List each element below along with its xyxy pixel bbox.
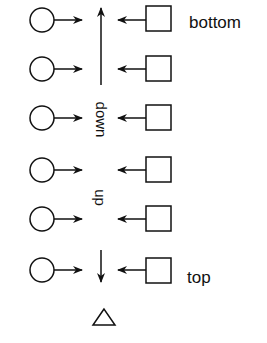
circle-node bbox=[30, 8, 54, 32]
stack-diagram bbox=[0, 0, 267, 343]
triangle-node bbox=[93, 309, 115, 325]
row-5 bbox=[30, 206, 171, 231]
label-down: down bbox=[93, 102, 110, 138]
label-top: top bbox=[187, 268, 211, 288]
square-node bbox=[146, 6, 171, 31]
row-4 bbox=[30, 157, 171, 182]
label-bottom: bottom bbox=[189, 13, 241, 33]
label-up: up bbox=[92, 189, 109, 206]
